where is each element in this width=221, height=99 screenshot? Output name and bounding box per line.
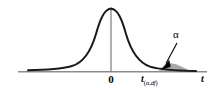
alpha-leader-line — [166, 43, 177, 64]
origin-label: 0 — [105, 74, 117, 85]
critical-value-subscript: (α,df) — [144, 79, 158, 86]
alpha-label: α — [173, 29, 179, 40]
t-distribution-curve — [28, 9, 196, 71]
critical-value-label: t(α,df) — [141, 74, 158, 86]
t-distribution-figure: 0 t(α,df) t α — [0, 0, 221, 99]
axis-label-t: t — [201, 74, 204, 84]
subscript-close-paren: ) — [156, 79, 158, 86]
